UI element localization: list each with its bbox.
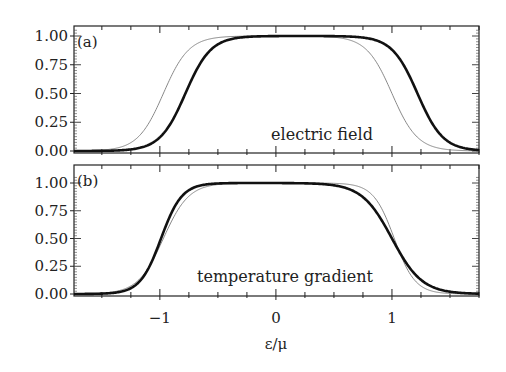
y-tick-label: 0.75 (35, 202, 68, 220)
y-tick-label: 0.50 (35, 85, 68, 103)
y-tick-label: 0.25 (35, 257, 68, 275)
x-tick-labels: −101 (149, 309, 397, 327)
y-tick-label: 1.00 (35, 27, 68, 45)
panel-a-ticks: 0.000.250.500.751.00 (35, 26, 479, 160)
x-axis-label: ε/μ (265, 335, 288, 353)
panel-b: 0.000.250.500.751.00 (b) temperature gra… (35, 165, 479, 303)
panel-a-label: (a) (77, 33, 98, 51)
panel-a: 0.000.250.500.751.00 (a) electric field (35, 26, 479, 160)
panel-b-annotation: temperature gradient (197, 267, 373, 286)
x-tick-label: 1 (387, 309, 397, 327)
panel-a-annotation: electric field (271, 125, 373, 144)
x-tick-label: 0 (271, 309, 281, 327)
y-tick-label: 0.75 (35, 56, 68, 74)
y-tick-label: 0.00 (35, 142, 68, 160)
y-tick-label: 1.00 (35, 174, 68, 192)
x-tick-label: −1 (149, 309, 171, 327)
y-tick-label: 0.25 (35, 113, 68, 131)
y-tick-label: 0.50 (35, 230, 68, 248)
panel-b-label: (b) (77, 172, 98, 190)
y-tick-label: 0.00 (35, 285, 68, 303)
figure: 0.000.250.500.751.00 (a) electric field … (0, 0, 506, 372)
